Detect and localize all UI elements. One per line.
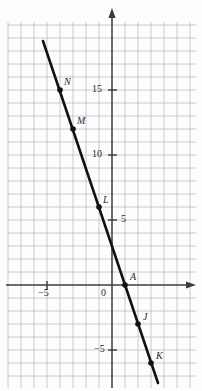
- point-label-A: A: [130, 272, 136, 282]
- y-tick-label-10: 10: [92, 149, 102, 159]
- point-K: [148, 360, 154, 366]
- grid-lines: [8, 22, 196, 388]
- point-J: [135, 321, 141, 327]
- point-label-M: M: [77, 116, 85, 126]
- point-N: [57, 87, 63, 93]
- graph-figure: 15 10 5 −5 −5 0 N M L A J K: [0, 0, 202, 391]
- y-tick-label-15: 15: [92, 84, 102, 94]
- point-L: [96, 204, 102, 210]
- point-A: [122, 282, 128, 288]
- point-label-N: N: [64, 77, 71, 87]
- y-axis-arrow: [108, 8, 115, 18]
- point-label-K: K: [156, 351, 163, 361]
- coordinate-plane: [0, 0, 202, 391]
- point-M: [70, 126, 76, 132]
- y-tick-label-5: 5: [121, 214, 126, 224]
- x-tick-label-neg5: −5: [38, 288, 49, 298]
- y-tick-label-neg5: −5: [94, 344, 105, 354]
- origin-label: 0: [101, 288, 106, 298]
- point-label-J: J: [143, 312, 147, 322]
- point-label-L: L: [103, 195, 109, 205]
- x-axis-arrow: [186, 281, 196, 288]
